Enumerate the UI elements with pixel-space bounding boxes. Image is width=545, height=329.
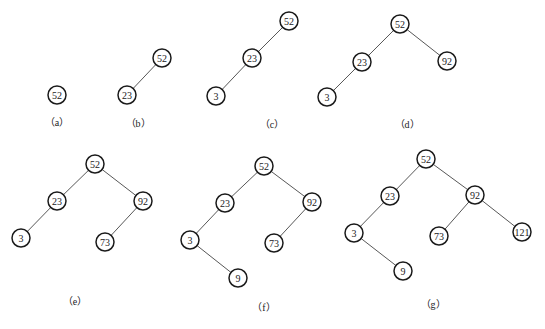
tree-d: 5223923（d） (318, 15, 456, 130)
node-label: 52 (259, 161, 269, 172)
tree-b: 5223（b） (118, 49, 171, 129)
edge-52-92 (407, 30, 440, 56)
tree-g: 5223923731219（g） (345, 150, 531, 310)
edge-52-23 (396, 165, 419, 189)
tree-node: 92 (466, 186, 484, 204)
tree-node: 52 (255, 157, 273, 175)
node-label: 92 (470, 190, 480, 201)
edge-3-9 (361, 239, 396, 266)
edge-92-73 (280, 209, 306, 237)
edge-23-3 (360, 202, 383, 226)
tree-node: 92 (438, 52, 456, 70)
tree-caption: （g） (421, 299, 446, 310)
tree-node: 9 (229, 269, 247, 287)
edge-52-23 (232, 172, 258, 197)
node-label: 52 (157, 53, 167, 64)
tree-caption: （e） (63, 296, 87, 307)
node-label: 121 (515, 227, 530, 238)
tree-node: 23 (353, 53, 371, 71)
tree-node: 121 (513, 223, 531, 241)
tree-node: 23 (243, 49, 261, 67)
edge-52-23 (133, 65, 156, 89)
tree-node: 73 (430, 227, 448, 245)
tree-node: 92 (134, 192, 152, 210)
edge-52-23 (258, 27, 282, 51)
node-label: 52 (421, 154, 431, 165)
tree-caption: （a） (45, 117, 69, 128)
tree-caption: （f） (252, 302, 275, 313)
edge-52-92 (102, 169, 136, 195)
tree-node: 73 (96, 233, 114, 251)
tree-c: 52233（c） (207, 12, 298, 130)
edge-52-92 (433, 164, 467, 189)
tree-node: 3 (318, 88, 336, 106)
bst-diagram: 52（a）5223（b）52233（c）5223923（d）522392373（… (0, 0, 545, 329)
tree-node: 23 (381, 187, 399, 205)
node-label: 3 (352, 228, 357, 239)
node-label: 23 (220, 198, 230, 209)
node-label: 52 (284, 16, 294, 27)
tree-node: 52 (48, 86, 66, 104)
tree-node: 52 (280, 12, 298, 30)
tree-f: 5223923739（f） (181, 157, 321, 313)
tree-node: 3 (207, 87, 225, 105)
node-label: 3 (188, 235, 193, 246)
tree-node: 3 (12, 229, 30, 247)
tree-node: 9 (394, 262, 412, 280)
node-label: 23 (122, 90, 132, 101)
tree-node: 23 (48, 192, 66, 210)
tree-node: 73 (265, 234, 283, 252)
tree-e: 522392373（e） (12, 155, 152, 307)
node-label: 3 (325, 92, 330, 103)
edge-92-73 (111, 208, 137, 236)
node-label: 23 (52, 196, 62, 207)
edge-23-3 (222, 65, 246, 90)
edge-23-3 (333, 68, 355, 90)
tree-node: 92 (303, 193, 321, 211)
node-label: 3 (19, 233, 24, 244)
node-label: 92 (442, 56, 452, 67)
edge-23-3 (196, 210, 219, 234)
node-label: 52 (52, 90, 62, 101)
node-label: 23 (357, 57, 367, 68)
tree-node: 3 (345, 224, 363, 242)
tree-node: 52 (153, 49, 171, 67)
tree-node: 52 (391, 15, 409, 33)
node-label: 73 (269, 238, 279, 249)
tree-node: 23 (118, 86, 136, 104)
tree-node: 23 (216, 194, 234, 212)
edge-52-23 (368, 30, 393, 55)
edge-52-23 (63, 170, 88, 194)
tree-node: 52 (417, 150, 435, 168)
tree-caption: （c） (260, 119, 284, 130)
edge-3-9 (197, 246, 231, 273)
tree-a: 52（a） (45, 86, 69, 128)
tree-caption: （b） (126, 118, 151, 129)
node-label: 9 (236, 273, 241, 284)
tree-caption: （d） (395, 119, 420, 130)
node-label: 9 (401, 266, 406, 277)
tree-node: 3 (181, 231, 199, 249)
node-label: 92 (307, 197, 317, 208)
node-label: 73 (100, 237, 110, 248)
edge-92-121 (482, 201, 515, 227)
node-label: 52 (395, 19, 405, 30)
node-label: 52 (90, 159, 100, 170)
edge-23-3 (27, 207, 50, 231)
node-label: 73 (434, 231, 444, 242)
edge-92-73 (445, 202, 469, 229)
node-label: 23 (385, 191, 395, 202)
node-label: 23 (247, 53, 257, 64)
node-label: 3 (214, 91, 219, 102)
tree-node: 52 (86, 155, 104, 173)
node-label: 92 (138, 196, 148, 207)
diagram-svg: 52（a）5223（b）52233（c）5223923（d）522392373（… (0, 0, 545, 329)
edge-52-92 (271, 171, 305, 196)
